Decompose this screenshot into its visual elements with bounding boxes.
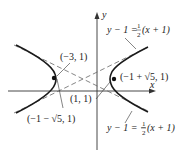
hyperbola-diagram: y x (−3, 1) (−1 + √5, 1) (1, 1) (−1 − √5…	[0, 0, 185, 157]
left-branch	[16, 45, 56, 113]
asymptote-positive-equation: y − 1 = 1 2 (x + 1)	[106, 22, 171, 39]
label-center: (1, 1)	[70, 93, 92, 105]
y-axis-arrow-icon	[95, 12, 100, 19]
leader-left-focus	[57, 79, 63, 108]
asym-neg-rhs: (x + 1)	[147, 122, 176, 134]
asym-neg-num: 1	[142, 120, 146, 128]
right-vertex-dot	[112, 77, 116, 81]
label-right-focus: (−1 + √5, 1)	[120, 71, 168, 83]
asym-pos-den: 2	[137, 31, 141, 39]
leader-asym-pos	[125, 38, 136, 49]
label-left-vertex: (−3, 1)	[60, 51, 87, 63]
asymptote-negative-equation: y − 1 = − 1 2 (x + 1)	[106, 120, 176, 137]
leader-left-vertex	[57, 63, 70, 76]
asym-neg-den: 2	[142, 129, 146, 137]
asym-neg-lhs: y − 1 = −	[106, 122, 147, 133]
asym-pos-num: 1	[137, 22, 141, 30]
left-vertex-dot	[52, 76, 56, 80]
asym-pos-rhs: (x + 1)	[142, 24, 171, 36]
leader-center	[96, 82, 110, 99]
asym-pos-lhs: y − 1 =	[106, 24, 137, 35]
label-left-focus: (−1 − √5, 1)	[27, 113, 75, 125]
y-axis-label: y	[101, 9, 107, 20]
